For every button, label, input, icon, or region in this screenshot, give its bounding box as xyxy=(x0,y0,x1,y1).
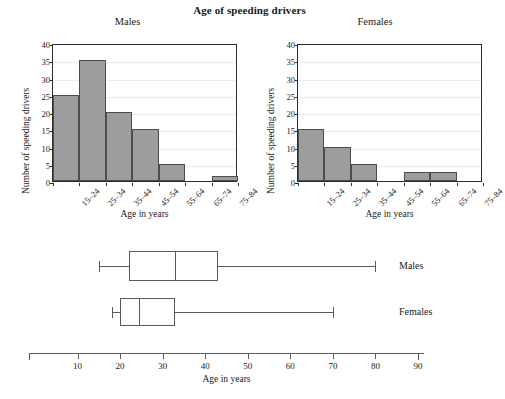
whisker-cap-max xyxy=(375,261,376,272)
gridline xyxy=(298,97,481,98)
histogram-bar xyxy=(404,172,430,181)
y-tick-label: 30 xyxy=(42,75,51,84)
axis-tick-mark xyxy=(163,353,164,359)
histogram-bar xyxy=(106,112,132,181)
histogram-bar xyxy=(53,95,79,181)
x-tick-label: 75–84 xyxy=(482,186,504,208)
axis-tick-mark xyxy=(290,353,291,359)
gridline xyxy=(298,80,481,81)
figure-title: Age of speeding drivers xyxy=(0,4,499,16)
axis-tick-label: 60 xyxy=(286,361,295,371)
y-tick-mark xyxy=(50,62,53,63)
axis-tick-label: 50 xyxy=(243,361,252,371)
histogram-bar xyxy=(79,60,105,181)
x-axis-label-males: Age in years xyxy=(52,209,237,219)
x-tick-mark xyxy=(159,183,160,186)
y-tick-mark xyxy=(295,97,298,98)
x-tick-label: 25–34 xyxy=(105,186,127,208)
x-tick-label: 25–34 xyxy=(350,186,372,208)
y-tick-label: 20 xyxy=(42,110,51,119)
boxplot-panel: Age in years MalesFemales102030405060708… xyxy=(0,236,499,399)
y-tick-label: 40 xyxy=(287,41,296,50)
axis-tick-mark xyxy=(333,353,334,359)
y-tick-label: 10 xyxy=(42,144,51,153)
histogram-panel-males: Males Number of speeding drivers 0510152… xyxy=(10,16,245,231)
x-tick-label: 55–64 xyxy=(185,186,207,208)
axis-tick-mark xyxy=(248,353,249,359)
histogram-bar xyxy=(159,164,185,181)
x-tick-label: 55–64 xyxy=(430,186,452,208)
y-tick-label: 5 xyxy=(291,162,295,171)
y-tick-label: 5 xyxy=(46,162,50,171)
axis-tick-mark xyxy=(120,353,121,359)
histogram-bar xyxy=(212,176,238,181)
boxplot-x-axis-label: Age in years xyxy=(202,374,250,384)
axis-end-left xyxy=(29,353,30,360)
y-tick-label: 15 xyxy=(42,127,51,136)
x-tick-mark xyxy=(351,183,352,186)
histogram-panel-females: Females Number of speeding drivers 05101… xyxy=(255,16,495,231)
x-tick-label: 35–44 xyxy=(377,186,399,208)
y-tick-mark xyxy=(295,62,298,63)
boxplot-axis-line xyxy=(29,353,424,354)
whisker-left xyxy=(112,312,121,313)
x-tick-mark xyxy=(79,183,80,186)
x-tick-label: 65–74 xyxy=(211,186,233,208)
x-tick-label: 15–24 xyxy=(324,186,346,208)
x-tick-label: 15–24 xyxy=(79,186,101,208)
median-line xyxy=(175,251,176,281)
axis-tick-label: 40 xyxy=(201,361,210,371)
y-tick-label: 20 xyxy=(287,110,296,119)
x-tick-mark xyxy=(238,183,239,186)
x-tick-mark xyxy=(377,183,378,186)
axis-tick-label: 90 xyxy=(414,361,423,371)
x-tick-mark xyxy=(185,183,186,186)
histogram-bar xyxy=(430,172,456,181)
y-tick-mark xyxy=(50,45,53,46)
x-tick-mark xyxy=(106,183,107,186)
x-tick-label: 45–54 xyxy=(403,186,425,208)
axis-tick-label: 30 xyxy=(158,361,167,371)
x-tick-mark xyxy=(298,183,299,186)
x-tick-mark xyxy=(430,183,431,186)
x-tick-label: 65–74 xyxy=(456,186,478,208)
plot-area-females: 0510152025303540 xyxy=(297,44,482,182)
box-iqr xyxy=(129,251,218,281)
boxplot-group-label: Males xyxy=(399,260,423,271)
x-tick-mark xyxy=(324,183,325,186)
x-tick-mark xyxy=(53,183,54,186)
axis-tick-label: 80 xyxy=(371,361,380,371)
whisker-right xyxy=(218,266,375,267)
histogram-title-males: Males xyxy=(10,16,245,27)
x-tick-mark xyxy=(457,183,458,186)
y-tick-label: 25 xyxy=(42,93,51,102)
x-tick-label: 35–44 xyxy=(132,186,154,208)
whisker-left xyxy=(99,266,129,267)
box-iqr xyxy=(120,298,175,326)
axis-tick-label: 70 xyxy=(328,361,337,371)
gridline xyxy=(298,131,481,132)
y-tick-label: 40 xyxy=(42,41,51,50)
axis-tick-mark xyxy=(418,353,419,359)
x-tick-mark xyxy=(212,183,213,186)
whisker-cap-min xyxy=(112,307,113,318)
x-tick-mark xyxy=(132,183,133,186)
x-tick-mark xyxy=(483,183,484,186)
y-tick-label: 30 xyxy=(287,75,296,84)
x-axis-label-females: Age in years xyxy=(297,209,482,219)
gridline xyxy=(298,62,481,63)
histogram-bar xyxy=(324,147,350,182)
y-tick-label: 15 xyxy=(287,127,296,136)
y-axis-label-males: Number of speeding drivers xyxy=(21,88,31,194)
axis-tick-mark xyxy=(205,353,206,359)
y-tick-mark xyxy=(295,114,298,115)
histogram-title-females: Females xyxy=(255,16,495,27)
y-tick-label: 10 xyxy=(287,144,296,153)
y-tick-label: 35 xyxy=(287,58,296,67)
y-tick-label: 0 xyxy=(46,179,50,188)
plot-area-males: 0510152025303540 xyxy=(52,44,237,182)
boxplot-group-label: Females xyxy=(399,306,432,317)
axis-tick-mark xyxy=(375,353,376,359)
axis-tick-label: 20 xyxy=(116,361,125,371)
